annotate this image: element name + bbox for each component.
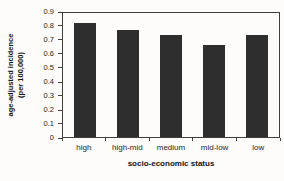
x-tick-mark — [236, 138, 237, 141]
x-axis-title: socio-economic status — [62, 159, 280, 168]
y-tick-label: 0.9 — [44, 8, 54, 16]
y-axis-ticks: 0.90.80.70.60.50.40.30.20.10 — [0, 12, 62, 138]
y-tick-label: 0.1 — [44, 120, 54, 128]
bar-slot — [236, 13, 279, 137]
x-tick-label-mid-low: mid-low — [193, 143, 237, 152]
y-tick-label: 0.3 — [44, 92, 54, 100]
bar-mid-low — [203, 45, 225, 137]
y-tick-label: 0.4 — [44, 78, 54, 86]
plot-area — [62, 12, 280, 138]
x-tick-mark — [192, 138, 193, 141]
bar-slot — [63, 13, 106, 137]
bar-low — [246, 35, 268, 137]
x-tick-mark — [62, 138, 63, 141]
bar-chart: age-adjusted incidence (per 100,000) 0.9… — [0, 0, 284, 181]
x-axis-labels: highhigh-midmediummid-lowlow — [62, 143, 280, 152]
bar-slot — [106, 13, 149, 137]
y-tick-label: 0.6 — [44, 50, 54, 58]
y-tick-label: 0.8 — [44, 22, 54, 30]
x-tick-label-high: high — [62, 143, 106, 152]
x-tick-label-high-mid: high-mid — [106, 143, 150, 152]
bar-medium — [160, 35, 182, 137]
x-tick-mark — [149, 138, 150, 141]
y-tick-label: 0 — [50, 134, 54, 142]
bar-high-mid — [117, 30, 139, 137]
x-tick-mark — [280, 138, 281, 141]
bar-high — [74, 23, 96, 137]
x-tick-label-medium: medium — [149, 143, 193, 152]
y-tick-label: 0.5 — [44, 64, 54, 72]
y-tick-label: 0.7 — [44, 36, 54, 44]
bar-slot — [149, 13, 192, 137]
bar-slot — [193, 13, 236, 137]
x-tick-mark — [105, 138, 106, 141]
x-tick-label-low: low — [236, 143, 280, 152]
x-axis-tick-marks — [62, 138, 280, 142]
y-tick-label: 0.2 — [44, 106, 54, 114]
